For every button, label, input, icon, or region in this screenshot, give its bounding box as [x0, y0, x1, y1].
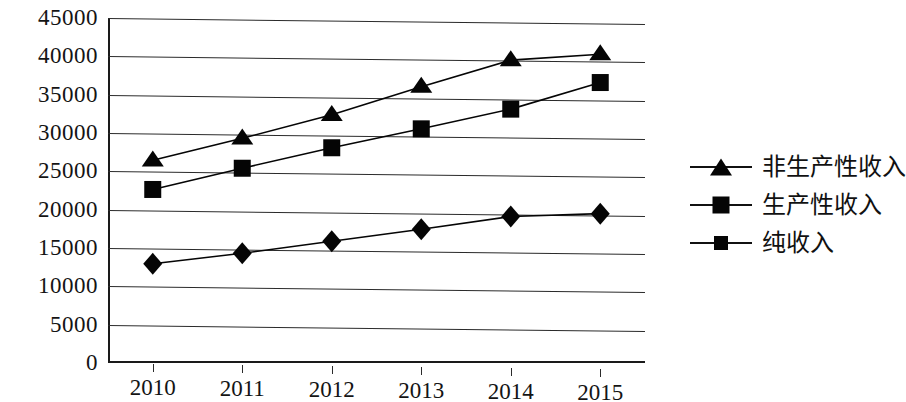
y-axis-tick-label: 0	[86, 351, 98, 374]
x-axis-tick-label: 2013	[398, 379, 444, 402]
gridline	[108, 133, 645, 140]
plot-area	[108, 18, 645, 363]
legend-marker-triangle-icon	[690, 154, 752, 180]
legend-item-label: 非生产性收入	[762, 154, 906, 180]
y-axis-labels: 0500010000150002000025000300003500040000…	[0, 0, 98, 402]
gridline	[108, 18, 645, 25]
x-axis-tick	[332, 366, 333, 374]
x-axis-tick	[600, 369, 601, 377]
y-axis-tick-label: 5000	[50, 313, 98, 336]
x-axis-tick-label: 2015	[577, 381, 623, 402]
legend-item-label: 生产性收入	[762, 192, 882, 218]
y-axis-tick-label: 10000	[38, 274, 98, 297]
y-axis-tick-label: 20000	[38, 198, 98, 221]
legend-marker-square-icon	[690, 192, 752, 218]
x-axis-tick-label: 2010	[130, 376, 176, 400]
y-axis-tick-label: 35000	[38, 83, 98, 106]
legend: 非生产性收入生产性收入纯收入	[690, 148, 886, 262]
gridline	[108, 325, 645, 332]
gridline	[108, 95, 645, 102]
legend-item[interactable]: 纯收入	[690, 224, 886, 262]
legend-item[interactable]: 生产性收入	[690, 186, 886, 224]
y-axis-tick-label: 40000	[38, 44, 98, 67]
y-axis-tick-label: 15000	[38, 236, 98, 259]
x-axis-tick-label: 2011	[220, 377, 265, 401]
x-axis-tick	[242, 365, 243, 373]
x-axis-tick-label: 2012	[309, 378, 355, 402]
gridline	[108, 210, 645, 217]
legend-marker-diamond-icon	[690, 230, 752, 256]
y-axis-tick-label: 30000	[38, 121, 98, 144]
triangle-icon	[710, 159, 732, 176]
x-axis-tick	[511, 368, 512, 376]
diamond-icon	[714, 236, 728, 250]
x-axis-line	[108, 361, 645, 363]
gridline	[108, 56, 645, 63]
y-axis-tick-label: 45000	[38, 6, 98, 29]
x-axis-tick	[153, 364, 154, 372]
y-axis-line	[108, 18, 110, 363]
y-axis-tick-label: 25000	[38, 159, 98, 182]
x-axis-tick	[421, 367, 422, 375]
square-icon	[713, 197, 730, 214]
legend-item[interactable]: 非生产性收入	[690, 148, 886, 186]
x-axis-tick-label: 2014	[488, 380, 534, 402]
gridline	[108, 171, 645, 178]
legend-item-label: 纯收入	[762, 230, 834, 256]
gridline	[108, 248, 645, 255]
gridline	[108, 286, 645, 293]
